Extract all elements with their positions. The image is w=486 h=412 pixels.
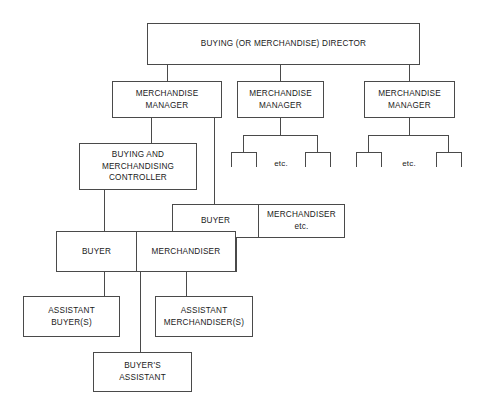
org-chart: BUYING (OR MERCHANDISE) DIRECTOR MERCHAN… (0, 0, 486, 412)
node-upper-merchandiser[interactable]: MERCHANDISER etc. (258, 205, 344, 237)
node-merchandise-manager-2[interactable]: MERCHANDISE MANAGER (237, 81, 324, 118)
node-upper-merchandiser-label: MERCHANDISER etc. (267, 209, 336, 233)
node-assistant-merchandisers-label: ASSISTANT MERCHANDISER(S) (164, 305, 244, 329)
node-assistant-buyers-label: ASSISTANT BUYER(S) (48, 305, 95, 329)
node-buying-merchandising-controller[interactable]: BUYING AND MERCHANDISING CONTROLLER (79, 143, 197, 190)
etc-label-branch-2: etc. (262, 159, 300, 168)
node-buyers-assistant[interactable]: BUYER'S ASSISTANT (93, 352, 192, 392)
etc-label-branch-3: etc. (390, 159, 428, 168)
node-merchandise-manager-1[interactable]: MERCHANDISE MANAGER (112, 81, 222, 118)
node-assistant-buyers[interactable]: ASSISTANT BUYER(S) (23, 296, 120, 337)
node-lower-buyer-label: BUYER (82, 246, 111, 258)
node-assistant-merchandisers[interactable]: ASSISTANT MERCHANDISER(S) (155, 296, 253, 337)
node-lower-buyer-merchandiser-pair: BUYER MERCHANDISER (56, 231, 236, 272)
node-upper-buyer-label: BUYER (201, 215, 230, 227)
node-buyers-assistant-label: BUYER'S ASSISTANT (119, 360, 166, 384)
node-director-label: BUYING (OR MERCHANDISE) DIRECTOR (201, 38, 366, 50)
node-merchandise-manager-3-label: MERCHANDISE MANAGER (378, 88, 441, 112)
node-merchandise-manager-3[interactable]: MERCHANDISE MANAGER (364, 81, 455, 118)
node-director[interactable]: BUYING (OR MERCHANDISE) DIRECTOR (147, 23, 420, 65)
node-controller-label: BUYING AND MERCHANDISING CONTROLLER (102, 149, 174, 185)
node-lower-merchandiser-label: MERCHANDISER (152, 246, 221, 258)
node-merchandise-manager-1-label: MERCHANDISE MANAGER (136, 88, 199, 112)
node-lower-buyer[interactable]: BUYER (57, 232, 136, 271)
node-merchandise-manager-2-label: MERCHANDISE MANAGER (249, 88, 312, 112)
node-lower-merchandiser[interactable]: MERCHANDISER (136, 232, 235, 271)
